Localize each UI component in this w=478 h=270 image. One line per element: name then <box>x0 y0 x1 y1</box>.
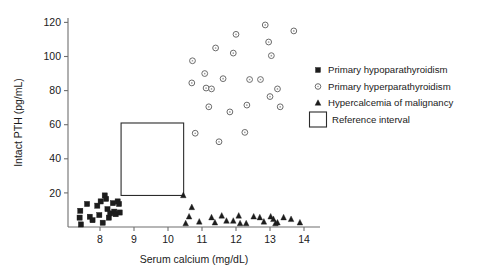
x-axis: 891011121314 <box>68 227 320 245</box>
point-square <box>97 212 102 217</box>
series-1 <box>189 22 297 145</box>
legend-label: Primary hyperparathyroidism <box>328 81 451 92</box>
point-circle-core <box>208 106 210 108</box>
point-circle-core <box>249 79 251 81</box>
data-points <box>77 22 303 227</box>
point-triangle <box>230 218 236 224</box>
legend-circle-core-icon <box>317 86 319 88</box>
point-circle-core <box>215 47 217 49</box>
point-triangle <box>281 214 287 220</box>
point-triangle <box>189 204 195 210</box>
point-circle-core <box>271 55 273 57</box>
point-triangle <box>219 213 225 219</box>
point-triangle <box>209 214 215 220</box>
point-triangle <box>251 213 257 219</box>
point-triangle <box>297 219 303 225</box>
legend-triangle-icon <box>315 100 321 106</box>
point-circle-core <box>192 60 194 62</box>
point-circle-core <box>232 52 234 54</box>
x-axis-title: Serum calcium (mg/dL) <box>140 253 249 265</box>
x-tick-label: 13 <box>264 233 276 245</box>
point-triangle <box>196 219 202 225</box>
legend-square-icon <box>316 68 321 73</box>
x-tick-label: 8 <box>97 233 103 245</box>
point-square <box>110 201 115 206</box>
x-tick-label: 10 <box>162 233 174 245</box>
legend-label: Primary hypoparathyroidism <box>328 64 447 75</box>
series-2 <box>181 192 303 226</box>
point-triangle <box>224 218 230 224</box>
point-circle-core <box>293 30 295 32</box>
point-circle-core <box>211 88 213 90</box>
x-tick-label: 12 <box>230 233 242 245</box>
point-circle-core <box>246 104 248 106</box>
reference-interval-rect <box>121 123 184 195</box>
point-circle-core <box>260 79 262 81</box>
y-tick-label: 40 <box>49 152 61 164</box>
point-triangle <box>236 213 242 219</box>
point-circle-core <box>191 82 193 84</box>
point-square <box>116 201 121 206</box>
point-triangle <box>237 220 243 226</box>
x-tick-label: 14 <box>298 233 310 245</box>
point-square <box>84 201 89 206</box>
y-axis-title: Intact PTH (pg/mL) <box>12 78 24 167</box>
point-circle-core <box>204 73 206 75</box>
point-triangle <box>257 214 263 220</box>
point-circle-core <box>222 78 224 80</box>
point-circle-core <box>194 132 196 134</box>
point-triangle <box>186 213 192 219</box>
y-tick-label: 120 <box>43 16 61 28</box>
point-triangle <box>288 216 294 222</box>
scatter-plot: 20406080100120 891011121314 Serum calciu… <box>0 0 478 270</box>
legend-label: Hypercalcemia of malignancy <box>328 97 454 108</box>
legend-rectangle-icon <box>310 112 327 127</box>
point-circle-core <box>244 132 246 134</box>
point-circle-core <box>268 41 270 43</box>
legend-item: Primary hypoparathyroidism <box>316 64 448 75</box>
point-circle-core <box>218 141 220 143</box>
point-circle-core <box>229 111 231 113</box>
point-square <box>98 199 103 204</box>
point-square <box>77 215 82 220</box>
legend-item: Hypercalcemia of malignancy <box>315 97 453 108</box>
point-square <box>78 208 83 213</box>
point-square <box>104 196 109 201</box>
legend-label: Reference interval <box>332 114 410 125</box>
chart-legend: Primary hypoparathyroidismPrimary hyperp… <box>310 64 454 127</box>
reference-interval-box <box>121 123 184 195</box>
point-circle-core <box>205 87 207 89</box>
point-circle-core <box>235 33 237 35</box>
series-0 <box>77 193 122 227</box>
x-tick-label: 9 <box>131 233 137 245</box>
point-square <box>90 218 95 223</box>
legend-item: Primary hyperparathyroidism <box>315 81 450 92</box>
point-circle-core <box>277 88 279 90</box>
point-square <box>78 222 83 227</box>
point-circle-core <box>269 96 271 98</box>
y-tick-label: 100 <box>43 50 61 62</box>
point-triangle <box>212 219 218 225</box>
y-tick-label: 60 <box>49 118 61 130</box>
point-triangle <box>243 220 249 226</box>
y-tick-label: 20 <box>49 187 61 199</box>
legend-item: Reference interval <box>310 112 410 127</box>
point-square <box>100 220 105 225</box>
y-tick-label: 80 <box>49 84 61 96</box>
point-triangle <box>183 220 189 226</box>
y-axis: 20406080100120 <box>43 16 68 227</box>
x-tick-label: 11 <box>197 233 208 245</box>
chart-figure: 20406080100120 891011121314 Serum calciu… <box>0 0 478 270</box>
point-circle-core <box>279 106 281 108</box>
point-circle-core <box>264 24 266 26</box>
point-square <box>117 210 122 215</box>
